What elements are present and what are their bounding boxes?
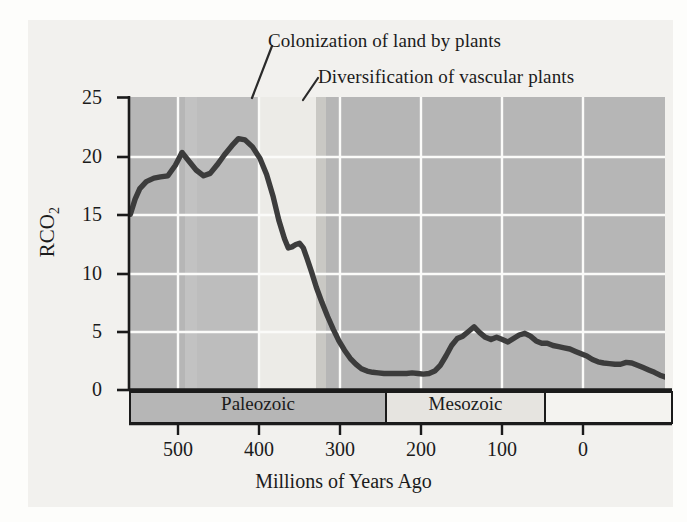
y-tick-10: 10 <box>62 262 102 285</box>
y-tick-25: 25 <box>62 86 102 109</box>
plot-shading <box>130 97 665 390</box>
y-axis <box>117 96 129 391</box>
x-tick-200: 200 <box>391 438 451 461</box>
annotation-colonization: Colonization of land by plants <box>268 30 501 52</box>
x-axis <box>129 424 672 435</box>
x-tick-300: 300 <box>310 438 370 461</box>
figure-container: Colonization of land by plants Diversifi… <box>0 0 687 522</box>
leader-line-colonization <box>252 46 272 98</box>
x-tick-0: 0 <box>553 438 613 461</box>
era-label-mesozoic: Mesozoic <box>386 393 545 415</box>
y-axis-label: RCO2 <box>35 177 63 287</box>
x-tick-400: 400 <box>229 438 289 461</box>
annotation-leader-lines <box>252 46 318 100</box>
x-tick-500: 500 <box>148 438 208 461</box>
leader-line-diversification <box>303 78 318 100</box>
y-axis-label-subscript: 2 <box>47 207 62 214</box>
y-tick-15: 15 <box>62 203 102 226</box>
x-axis-label: Millions of Years Ago <box>0 470 687 493</box>
y-tick-5: 5 <box>62 320 102 343</box>
annotation-diversification: Diversification of vascular plants <box>318 66 574 88</box>
y-axis-label-text: RCO <box>35 214 59 257</box>
y-tick-0: 0 <box>62 378 102 401</box>
y-tick-20: 20 <box>62 145 102 168</box>
era-label-paleozoic: Paleozoic <box>130 393 386 415</box>
x-tick-100: 100 <box>472 438 532 461</box>
